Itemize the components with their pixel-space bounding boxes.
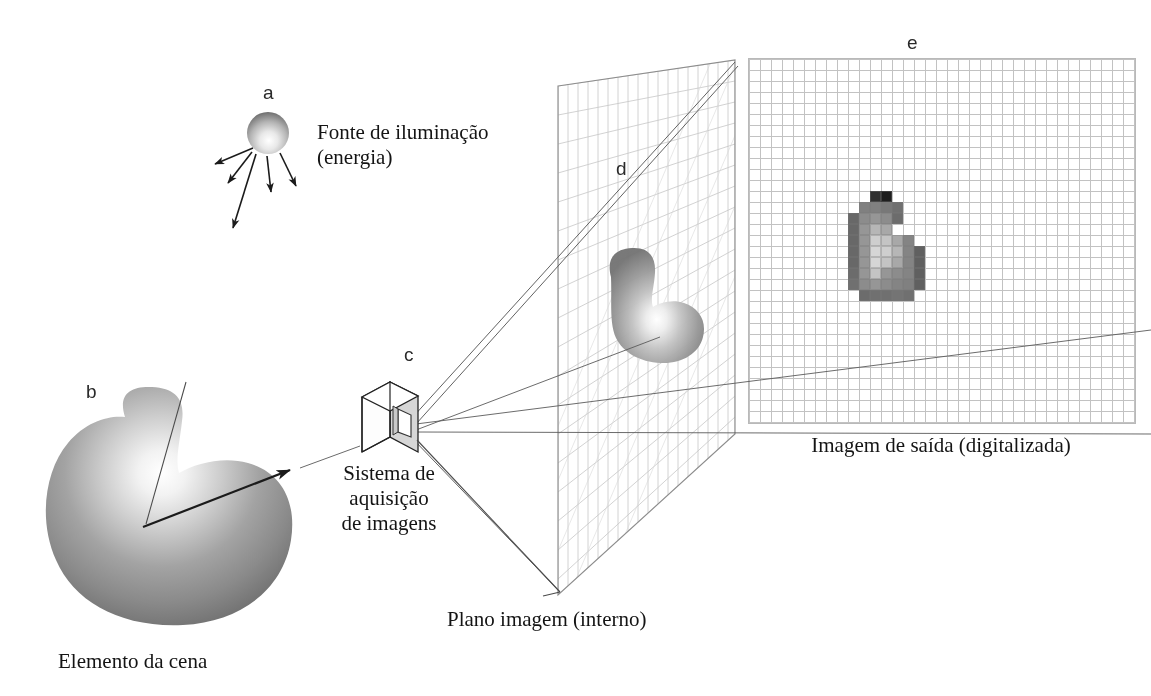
figure-canvas: a Fonte de iluminação (energia) b Elemen… (0, 0, 1151, 696)
caption-illumination-line1: Fonte de iluminação (317, 121, 488, 145)
label-letter-c: c (404, 344, 414, 365)
caption-scene-element: Elemento da cena (58, 650, 207, 674)
label-letter-e: e (907, 32, 918, 53)
caption-image-plane: Plano imagem (interno) (447, 608, 646, 632)
illumination-rays (215, 148, 296, 228)
illumination-source (247, 112, 289, 154)
diagram-vectors (0, 0, 1151, 696)
label-letter-b: b (86, 381, 97, 402)
caption-acquisition-line1: Sistema de (303, 462, 475, 486)
scene-element-blob (46, 387, 292, 625)
acquisition-system-box (362, 382, 418, 452)
caption-acquisition-line2: aquisição (303, 487, 475, 511)
caption-acquisition-line3: de imagens (303, 512, 475, 536)
caption-illumination-line2: (energia) (317, 146, 392, 170)
label-letter-d: d (616, 158, 627, 179)
projection-rays (412, 62, 1151, 592)
caption-output-image: Imagem de saída (digitalizada) (748, 434, 1134, 458)
label-letter-a: a (263, 82, 274, 103)
